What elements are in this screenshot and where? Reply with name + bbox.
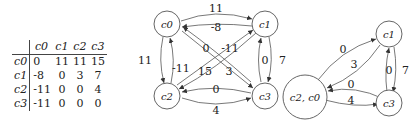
edge-label: -11: [221, 42, 239, 55]
node-label: c0: [161, 19, 174, 30]
edge-label: 11: [209, 2, 223, 15]
node-label: c2, c0: [290, 92, 321, 103]
edge-label: 7: [402, 64, 409, 77]
edge-c0-c2: [161, 37, 164, 83]
edge-c3-m: [328, 89, 384, 99]
edge-label: 0: [262, 54, 269, 67]
edge-label: 3: [226, 65, 233, 78]
edge-label: 0: [213, 83, 220, 96]
edge-label: 4: [213, 104, 220, 117]
edge-label: 15: [198, 65, 212, 78]
node-label: c3: [383, 98, 395, 109]
edge-label: -11: [172, 62, 190, 75]
edge-c1-c2: [179, 33, 256, 89]
edge-c0-c1: [181, 14, 252, 21]
node-label: c2: [161, 91, 173, 102]
node-label: c1: [383, 29, 395, 40]
edge-m-c1: [318, 39, 376, 80]
edge-label: 0: [348, 78, 355, 91]
edge-c1-c3: [393, 47, 396, 92]
edge-label: 0: [340, 43, 347, 56]
node-label: c3: [259, 91, 271, 102]
node-label: c1: [259, 19, 271, 30]
edge-c0-c3: [182, 31, 253, 88]
edge-label: 0: [386, 64, 393, 77]
edge-label: 3: [351, 58, 358, 71]
edge-label: 11: [138, 54, 152, 67]
edge-label: 0: [203, 42, 210, 55]
edge-c2-c0: [170, 38, 173, 83]
graph-diagrams: c0 c1 c2 c3 c2, c0 c1 c3 11 -8 11 -11 0 …: [0, 0, 419, 125]
edge-label: 4: [348, 94, 355, 107]
edge-label: -8: [211, 21, 222, 34]
edge-label: 7: [279, 54, 286, 67]
